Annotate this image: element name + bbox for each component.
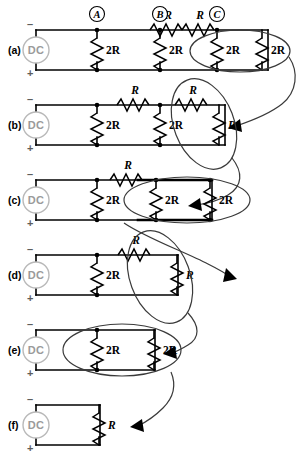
row-b-shunt-resistor-2: 2R [154,105,184,145]
row-a-shunt-resistor-4: 2R [256,30,286,70]
row-c-series-resistor-1-label: R [123,159,132,171]
dc-source-f-label: DC [28,419,45,431]
dc-source-b-minus: – [27,93,33,105]
row-e-shunt-resistor-1: 2R [91,330,121,370]
circuit-diagram-svg: DC – + R R 2R [0,0,304,462]
row-d-caption: (d) [8,269,21,281]
node-badge-a: A [90,7,105,22]
row-c-caption: (c) [8,194,21,206]
dc-source-e-plus: + [27,367,33,379]
row-a-node-b-bottom-dot [158,68,163,73]
row-b-series-resistor-1-label: R [130,84,139,96]
circuit-row-a: DC – + R R 2R [8,7,290,80]
dc-source-a-minus: – [27,18,33,30]
row-a-shunt-resistor-4-label: 2R [271,44,286,56]
row-b-shunt-resistor-1-label: 2R [106,119,121,131]
row-c-shunt-resistor-1: 2R [91,180,121,220]
row-a-node-a-dot [95,28,100,33]
circuit-row-e: DC – + 2R 2R (e) [8,318,181,379]
row-b-series-resistor-2-label: R [188,84,197,96]
row-d-node-1-bottom-dot [95,293,100,298]
figure-canvas: DC – + R R 2R [0,0,304,462]
connector-e-to-f [130,372,174,432]
dc-source-d-minus: – [27,243,33,255]
dc-source-e-minus: – [27,318,33,330]
row-a-series-resistor-2-label: R [195,9,204,21]
row-d-shunt-resistor-1-label: 2R [106,269,121,281]
row-a-node-b-dot [158,28,163,33]
row-b-series-resistor-1: R [117,84,149,111]
row-b-series-resistor-2: R [175,84,207,111]
dc-source-b-label: DC [28,119,45,131]
row-c-node-1-bottom-dot [95,218,100,223]
row-c-shunt-resistor-2: 2R [150,180,180,220]
row-b-node-2-bottom-dot [158,143,163,148]
row-a-shunt-resistor-1: 2R [91,30,121,70]
row-c-node-1-top-dot [95,178,100,183]
row-c-shunt-resistor-2-label: 2R [165,194,180,206]
connector-c-to-d [124,223,237,282]
dc-source-c-label: DC [28,194,45,206]
row-b-node-1-bottom-dot [95,143,100,148]
row-f-shunt-resistor-1: R [93,405,116,445]
dc-source-a-label: DC [28,44,45,56]
row-e-shunt-resistor-2: 2R [148,330,178,370]
row-e-caption: (e) [8,344,21,356]
dc-source-d-label: DC [28,269,45,281]
dc-source-b-plus: + [27,142,33,154]
row-a-shunt-resistor-3-label: 2R [226,44,241,56]
row-e-node-1-bottom-dot [95,368,100,373]
row-b-node-1-top-dot [95,103,100,108]
row-c-shunt-resistor-3: 2R [204,180,234,220]
row-e-shunt-resistor-2-label: 2R [163,344,178,356]
row-d-series-resistor-1-label: R [131,234,140,246]
row-a-shunt-resistor-1-label: 2R [106,44,121,56]
dc-source-d-plus: + [27,292,33,304]
row-b-node-2-top-dot [158,103,163,108]
connector-b-to-c-arrowhead [188,198,202,211]
connector-e-to-f-arrowhead [130,419,144,432]
dc-source-e-label: DC [28,344,45,356]
node-badge-c: C [210,7,225,22]
row-e-shunt-resistor-1-label: 2R [106,344,121,356]
row-a-shunt-resistor-3: 2R [211,30,241,70]
row-b-shunt-resistor-2-label: 2R [169,119,184,131]
dc-source-f-plus: + [27,442,33,454]
row-a-node-a-bottom-dot [95,68,100,73]
connector-c-to-d-arrowhead [223,268,237,282]
row-a-shunt-resistor-2: 2R [154,30,184,70]
dc-source-a-plus: + [27,67,33,79]
node-badge-a-label: A [92,9,100,20]
row-b-shunt-resistor-1: 2R [91,105,121,145]
dc-source-f-minus: – [27,393,33,405]
dc-source-c-minus: – [27,168,33,180]
row-c-series-resistor-1: R [110,159,142,186]
circuit-row-d: DC – + R 2R R (d) [8,222,205,333]
node-badge-b-label: B [155,9,163,20]
row-f-caption: (f) [8,419,19,431]
node-badge-b: B [153,7,168,22]
row-d-shunt-resistor-1: 2R [91,255,121,295]
row-f-shunt-resistor-1-label: R [107,419,116,431]
row-e-node-1-top-dot [95,328,100,333]
row-d-highlight-ellipse [115,222,204,333]
row-d-series-resistor-1: R [118,234,150,261]
node-badge-c-label: C [213,9,221,20]
row-b-caption: (b) [8,119,21,131]
row-d-node-1-top-dot [95,253,100,258]
row-a-shunt-resistor-2-label: 2R [169,44,184,56]
dc-source-c-plus: + [27,217,33,229]
circuit-row-f: DC – + R (f) [8,393,116,454]
row-c-shunt-resistor-1-label: 2R [106,194,121,206]
row-c-shunt-resistor-3-label: 2R [219,194,234,206]
row-a-caption: (a) [8,44,21,56]
